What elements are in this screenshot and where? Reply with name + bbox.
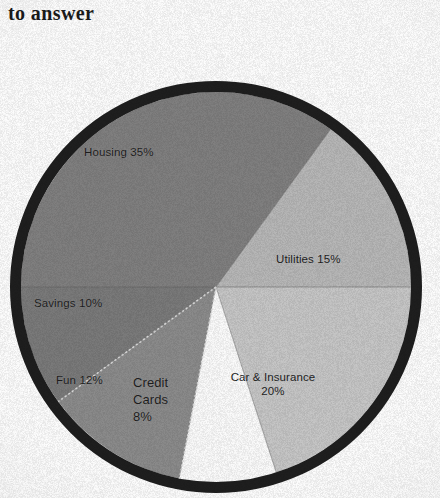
pie-chart: Housing 35% Utilities 15% Car & Insuranc…	[0, 0, 440, 498]
slice-label-savings: Savings 10%	[34, 296, 102, 310]
slice-label-fun: Fun 12%	[56, 373, 103, 387]
slice-label-housing: Housing 35%	[84, 145, 154, 159]
screenshot-page: to answer Housing 35% Utilities 15% Car …	[0, 0, 440, 498]
slice-label-credit-cards: Credit Cards 8%	[133, 374, 168, 425]
slice-label-utilities: Utilities 15%	[276, 252, 341, 266]
pie-chart-svg	[0, 0, 440, 498]
slice-label-car-insurance: Car & Insurance 20%	[217, 370, 329, 398]
